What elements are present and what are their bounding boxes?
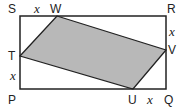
label-r: R	[167, 2, 176, 16]
label-q: Q	[164, 93, 173, 107]
label-p: P	[8, 93, 16, 107]
label-u: U	[128, 93, 137, 107]
label-uq-length: x	[146, 92, 153, 107]
label-t: T	[8, 49, 16, 63]
label-s: S	[8, 2, 16, 16]
label-rv-length: x	[168, 24, 175, 39]
label-sw-length: x	[33, 1, 40, 16]
label-v: V	[168, 43, 176, 57]
label-w: W	[50, 2, 62, 16]
label-tp-length: x	[9, 68, 16, 83]
geometry-diagram: S W R V T P U Q x x x x	[0, 0, 183, 107]
